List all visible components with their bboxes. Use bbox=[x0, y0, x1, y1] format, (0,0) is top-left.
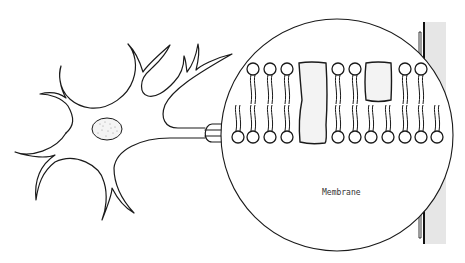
phospholipid-head bbox=[264, 63, 276, 75]
phospholipid-head bbox=[232, 131, 244, 143]
membrane-label: Membrane bbox=[322, 188, 361, 197]
phospholipid-head bbox=[431, 131, 443, 143]
phospholipid-head bbox=[415, 63, 427, 75]
protein-large bbox=[299, 62, 327, 144]
phospholipid-head bbox=[264, 131, 276, 143]
axon bbox=[205, 124, 222, 142]
neuron bbox=[15, 44, 232, 220]
phospholipid-head bbox=[247, 63, 259, 75]
phospholipid-head bbox=[281, 131, 293, 143]
phospholipid-head bbox=[247, 131, 259, 143]
phospholipid-head bbox=[332, 131, 344, 143]
phospholipid-head bbox=[332, 63, 344, 75]
phospholipid-head bbox=[349, 63, 361, 75]
protein-small bbox=[365, 62, 392, 102]
neuron-membrane-diagram bbox=[0, 0, 465, 263]
phospholipid-head bbox=[365, 131, 377, 143]
phospholipid-head bbox=[399, 131, 411, 143]
phospholipid-head bbox=[349, 131, 361, 143]
phospholipid-head bbox=[382, 131, 394, 143]
phospholipid-head bbox=[281, 63, 293, 75]
diagram-canvas: Membrane bbox=[0, 0, 465, 263]
phospholipid-head bbox=[399, 63, 411, 75]
nucleus bbox=[92, 118, 122, 140]
phospholipid-head bbox=[415, 131, 427, 143]
